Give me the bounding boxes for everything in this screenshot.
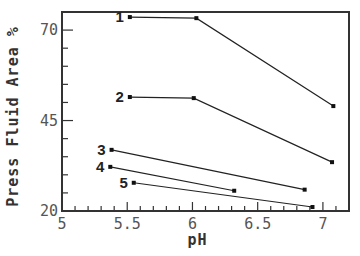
y-tick-label: 20 <box>40 202 58 220</box>
series-label: 1 <box>115 8 123 25</box>
series-label: 5 <box>119 174 127 191</box>
plot-frame <box>62 12 349 211</box>
series-line-4 <box>110 167 234 191</box>
series-label: 3 <box>97 141 105 158</box>
data-point <box>330 160 334 164</box>
y-axis-title: Press Fluid Area % <box>4 26 22 207</box>
data-point <box>303 188 307 192</box>
y-tick-label: 70 <box>40 21 58 39</box>
series-line-1 <box>130 17 334 106</box>
x-tick-label: 5.5 <box>114 215 141 233</box>
x-tick-label: 7 <box>318 215 327 233</box>
y-tick-label: 45 <box>40 112 58 130</box>
data-point <box>128 95 132 99</box>
axes: 55.566.57204570 <box>40 12 349 233</box>
x-tick-label: 5 <box>57 215 66 233</box>
chart: 55.566.57204570 12345 pH Press Fluid Are… <box>0 0 360 256</box>
series-marks: 12345 <box>96 8 335 209</box>
x-tick-label: 6.5 <box>244 215 271 233</box>
data-point <box>110 148 114 152</box>
series-label: 2 <box>115 88 123 105</box>
data-point <box>310 205 314 209</box>
data-point <box>194 16 198 20</box>
data-point <box>331 104 335 108</box>
data-point <box>128 15 132 19</box>
data-point <box>192 96 196 100</box>
data-point <box>132 181 136 185</box>
data-point <box>108 165 112 169</box>
series-line-5 <box>134 183 313 207</box>
series-label: 4 <box>96 158 105 175</box>
data-point <box>232 189 236 193</box>
x-axis-title: pH <box>187 231 207 249</box>
series-line-2 <box>130 97 332 162</box>
